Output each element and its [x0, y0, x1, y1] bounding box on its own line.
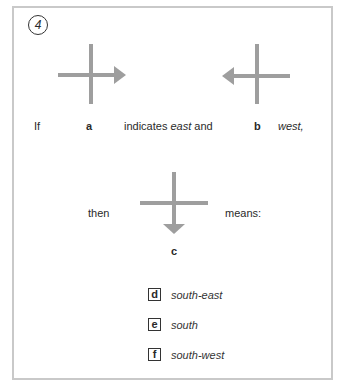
label-b: b — [254, 120, 261, 132]
indicates-east-text: indicates east and — [124, 120, 213, 132]
label-a: a — [86, 120, 92, 132]
then-text: then — [88, 207, 109, 219]
arrow-east-icon — [56, 44, 128, 106]
west-text: west, — [278, 120, 304, 132]
option-e[interactable]: e south — [148, 318, 198, 331]
arrow-south-icon — [138, 172, 210, 236]
option-label: south-east — [171, 289, 222, 301]
east-text: east — [170, 120, 191, 132]
option-letter-box: d — [148, 288, 161, 301]
option-label: south — [171, 319, 198, 331]
option-letter-box: e — [148, 318, 161, 331]
label-c: c — [171, 245, 177, 257]
indicates-text: indicates — [124, 120, 170, 132]
option-f[interactable]: f south-west — [148, 348, 224, 361]
exercise-number: 4 — [28, 15, 48, 35]
option-d[interactable]: d south-east — [148, 288, 222, 301]
means-text: means: — [225, 207, 261, 219]
option-label: south-west — [171, 349, 224, 361]
arrow-west-icon — [220, 44, 292, 106]
if-text: If — [34, 120, 40, 132]
and-text: and — [191, 120, 212, 132]
option-letter-box: f — [148, 348, 161, 361]
